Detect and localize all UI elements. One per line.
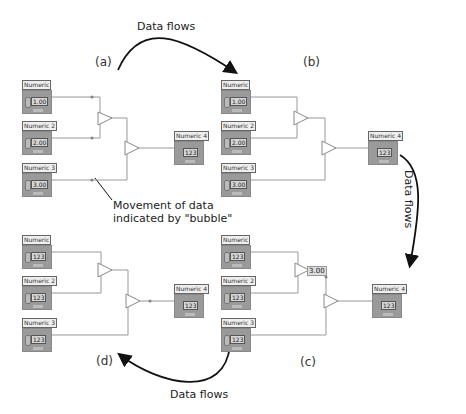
control-value[interactable]: 123 — [230, 335, 245, 344]
numeric-3-control[interactable]: Numeric 3 123 — [221, 318, 253, 352]
indicator-value: 123 — [183, 148, 198, 157]
numeric-3-control[interactable]: Numeric 3 3.00 — [22, 163, 54, 197]
control-value[interactable]: 123 — [31, 293, 46, 302]
numeric-control[interactable]: Numeric 1.00 — [22, 80, 54, 114]
bubble-note-line1: Movement of data — [113, 199, 214, 212]
indicator-label: Numeric 4 — [174, 131, 209, 141]
control-label: Numeric — [22, 80, 51, 90]
numeric-4-indicator: Numeric 4 123 — [174, 131, 206, 165]
numeric-control[interactable]: Numeric 1.00 — [221, 80, 253, 114]
add-node-result-value: 3.00 — [307, 266, 327, 276]
control-label: Numeric — [221, 80, 250, 90]
control-label: Numeric 2 — [221, 276, 256, 286]
control-label: Numeric 3 — [221, 318, 256, 328]
bubble-note-line2: indicated by "bubble" — [113, 212, 232, 225]
control-value[interactable]: 3.00 — [230, 180, 247, 189]
numeric-3-control[interactable]: Numeric 3 123 — [22, 318, 54, 352]
numeric-4-indicator: Numeric 4 123 — [372, 284, 404, 318]
control-value[interactable]: 123 — [230, 252, 245, 261]
control-label: Numeric 2 — [22, 276, 57, 286]
control-value[interactable]: 1.00 — [230, 97, 247, 106]
data-flows-label-right: Data flows — [402, 170, 415, 228]
indicator-label: Numeric 4 — [372, 284, 407, 294]
control-value[interactable]: 123 — [31, 335, 46, 344]
control-label: Numeric — [22, 235, 51, 245]
panel-label-b: (b) — [303, 55, 320, 69]
data-flows-label-bottom: Data flows — [170, 388, 228, 401]
indicator-label: Numeric 4 — [368, 131, 403, 141]
control-value[interactable]: 123 — [230, 293, 245, 302]
control-label: Numeric 2 — [22, 121, 57, 131]
panel-label-a: (a) — [95, 55, 112, 69]
control-value[interactable]: 2.00 — [230, 138, 247, 147]
control-label: Numeric 3 — [22, 318, 57, 328]
indicator-value: 123 — [183, 301, 198, 310]
dataflow-figure: Data flows Data flows Data flows Movemen… — [0, 0, 466, 414]
numeric-control[interactable]: Numeric 123 — [22, 235, 54, 269]
control-value[interactable]: 3.00 — [31, 180, 48, 189]
indicator-value: 123 — [381, 301, 396, 310]
control-value[interactable]: 1.00 — [31, 97, 48, 106]
control-label: Numeric 3 — [221, 163, 256, 173]
indicator-value: 123 — [377, 148, 392, 157]
numeric-2-control[interactable]: Numeric 2 2.00 — [22, 121, 54, 155]
indicator-label: Numeric 4 — [174, 284, 209, 294]
control-label: Numeric 2 — [221, 121, 256, 131]
numeric-4-indicator: Numeric 4 123 — [174, 284, 206, 318]
panel-label-d: (d) — [96, 354, 113, 368]
numeric-2-control[interactable]: Numeric 2 123 — [221, 276, 253, 310]
numeric-4-indicator: Numeric 4 123 — [368, 131, 400, 165]
panel-label-c: (c) — [300, 355, 316, 369]
numeric-2-control[interactable]: Numeric 2 2.00 — [221, 121, 253, 155]
control-label: Numeric 3 — [22, 163, 57, 173]
numeric-control[interactable]: Numeric 123 — [221, 235, 253, 269]
data-flows-label-top: Data flows — [137, 20, 195, 33]
control-label: Numeric — [221, 235, 250, 245]
control-value[interactable]: 2.00 — [31, 138, 48, 147]
numeric-2-control[interactable]: Numeric 2 123 — [22, 276, 54, 310]
control-value[interactable]: 123 — [31, 252, 46, 261]
numeric-3-control[interactable]: Numeric 3 3.00 — [221, 163, 253, 197]
